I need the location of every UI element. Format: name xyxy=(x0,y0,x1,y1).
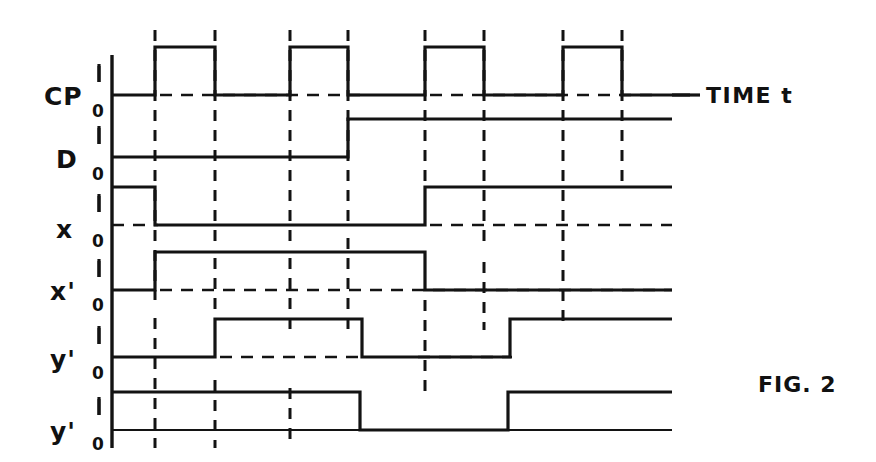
figure-caption: FIG. 2 xyxy=(758,372,837,397)
signal-label-cp: CP xyxy=(44,82,83,111)
signal-label-d: D xyxy=(56,145,78,174)
signal-label-yp-upper: y' xyxy=(50,345,76,374)
timing-diagram-canvas: CP D x x' y' y' CP 0 0 0 0 0 0 TIME t FI… xyxy=(0,0,876,462)
waveform-cp xyxy=(112,47,690,95)
waveform-xp xyxy=(112,252,672,290)
gridline-group xyxy=(155,30,622,448)
level-label-d-low: 0 xyxy=(92,164,104,184)
level-label-cp-low: 0 xyxy=(92,101,104,121)
signal-label-xp: x' xyxy=(50,277,76,306)
level-label-xp-low: 0 xyxy=(92,295,104,315)
timing-diagram-figure: CP D x x' y' y' CP 0 0 0 0 0 0 TIME t FI… xyxy=(0,0,876,462)
level-label-yp2-low: 0 xyxy=(92,434,104,454)
signal-label-yp-lower: y' xyxy=(50,417,76,446)
waveform-yp-lower xyxy=(112,392,672,430)
signal-label-x: x xyxy=(56,215,73,244)
level-label-yp1-low: 0 xyxy=(92,363,104,383)
waveform-yp-upper xyxy=(112,319,672,357)
waveform-x xyxy=(112,187,672,225)
waveform-d xyxy=(112,119,672,157)
level-label-x-low: 0 xyxy=(92,231,104,251)
time-axis-label: TIME t xyxy=(706,83,793,108)
